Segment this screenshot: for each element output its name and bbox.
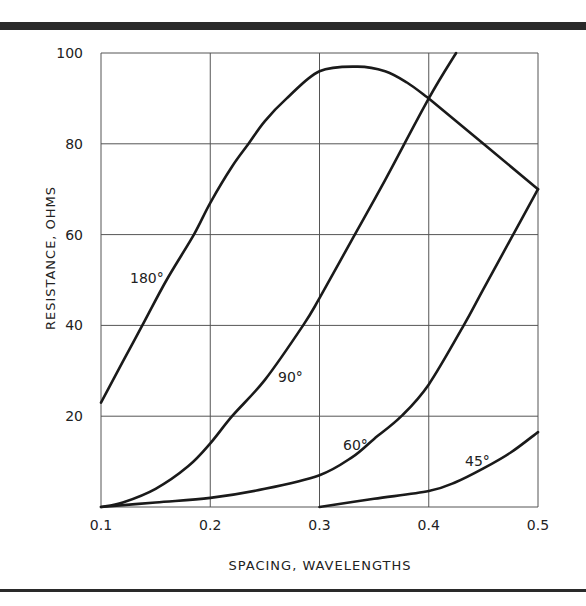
curve-labels: 180°90°60°45° [130,270,490,469]
y-tick-label: 80 [65,136,83,152]
y-axis-label: RESISTANCE, OHMS [43,186,58,330]
curve-label-90deg: 90° [278,369,303,385]
curve-label-45deg: 45° [465,453,490,469]
y-tick-label: 60 [65,227,83,243]
y-tick-label: 100 [56,45,83,61]
x-tick-label: 0.2 [199,517,221,533]
x-tick-label: 0.5 [527,517,549,533]
x-tick-label: 0.4 [418,517,440,533]
curve-label-180deg: 180° [130,270,164,286]
curve-label-60deg: 60° [343,437,368,453]
x-tick-label: 0.1 [90,517,112,533]
x-tick-label: 0.3 [308,517,330,533]
y-tick-label: 20 [65,408,83,424]
x-axis-label: SPACING, WAVELENGTHS [229,558,412,573]
y-tick-label: 40 [65,317,83,333]
resistance-chart: 0.10.20.30.40.520406080100 180°90°60°45°… [0,0,586,606]
